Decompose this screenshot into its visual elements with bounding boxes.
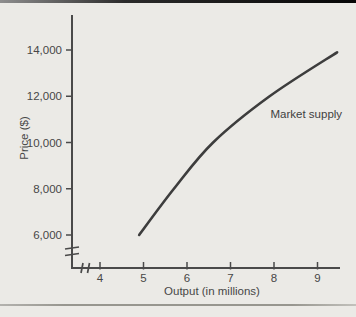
x-axis-title: Output (in millions) (164, 285, 260, 297)
x-tick-label: 7 (227, 272, 233, 284)
supply-curve (139, 52, 337, 235)
y-tick-label: 8,000 (33, 183, 62, 195)
x-tick-label: 9 (314, 272, 320, 284)
bottom-rule (0, 304, 356, 306)
y-tick-label: 14,000 (27, 44, 62, 56)
figure: 6,0008,00010,00012,00014,000456789 Price… (0, 0, 356, 317)
x-tick-label: 5 (140, 272, 146, 284)
x-tick-label: 8 (271, 272, 277, 284)
y-axis-title: Price ($) (18, 116, 30, 159)
y-tick-label: 12,000 (27, 90, 62, 102)
x-axis-break (81, 263, 83, 273)
x-axis-break (88, 263, 90, 273)
supply-chart: 6,0008,00010,00012,00014,000456789 (0, 0, 356, 317)
y-axis-break (65, 254, 79, 256)
x-tick-label: 4 (97, 272, 104, 284)
y-tick-label: 6,000 (33, 229, 62, 241)
x-tick-label: 6 (184, 272, 190, 284)
market-supply-label: Market supply (271, 108, 343, 120)
y-axis-break (65, 247, 79, 249)
y-tick-label: 10,000 (27, 137, 62, 149)
